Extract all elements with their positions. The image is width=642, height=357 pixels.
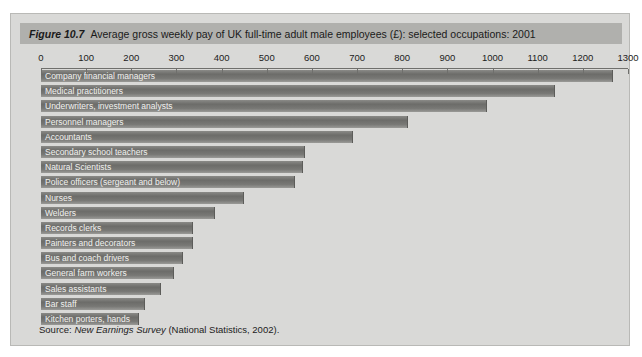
bar[interactable] — [41, 222, 193, 234]
x-tick-label: 400 — [214, 52, 230, 63]
bar[interactable] — [41, 207, 215, 219]
bar[interactable] — [41, 161, 303, 173]
x-tick-label: 100 — [78, 52, 94, 63]
bar[interactable] — [41, 267, 174, 279]
figure-title: Average gross weekly pay of UK full-time… — [90, 28, 535, 40]
source-suffix: (National Statistics, 2002). — [168, 324, 279, 335]
x-tick-mark — [267, 69, 268, 74]
x-tick-mark — [41, 69, 42, 74]
bar[interactable] — [41, 70, 613, 82]
source-prefix: Source: — [39, 324, 72, 335]
x-tick-label: 700 — [349, 52, 365, 63]
x-tick-mark — [583, 69, 584, 74]
bar-row[interactable]: Underwriters, investment analysts — [20, 99, 622, 114]
x-tick-label: 1300 — [617, 52, 638, 63]
bar-row[interactable]: Natural Scientists — [20, 160, 622, 175]
bar-row[interactable]: Sales assistants — [20, 282, 622, 297]
bar-row[interactable]: Company financial managers — [20, 69, 622, 84]
x-tick-label: 1000 — [482, 52, 503, 63]
x-tick-label: 900 — [439, 52, 455, 63]
bar[interactable] — [41, 192, 244, 204]
x-tick-mark — [493, 69, 494, 74]
bar-row[interactable]: Nurses — [20, 191, 622, 206]
source-publication: New Earnings Survey — [74, 324, 165, 335]
x-tick-mark — [357, 69, 358, 74]
source-note: Source: New Earnings Survey (National St… — [39, 324, 279, 335]
bar-row[interactable]: Personnel managers — [20, 115, 622, 130]
bar[interactable] — [41, 146, 305, 158]
bar[interactable] — [41, 237, 193, 249]
bar-row[interactable]: Records clerks — [20, 221, 622, 236]
plot-area: 0100200300400500600700800900100011001200… — [20, 52, 622, 307]
figure-number: Figure 10.7 — [29, 28, 84, 40]
bar-row[interactable]: Bus and coach drivers — [20, 251, 622, 266]
figure-panel: Figure 10.7 Average gross weekly pay of … — [10, 13, 630, 346]
bar-row[interactable]: Bar staff — [20, 297, 622, 312]
x-tick-label: 200 — [123, 52, 139, 63]
x-tick-mark — [447, 69, 448, 74]
bar[interactable] — [41, 298, 145, 310]
bar[interactable] — [41, 252, 183, 264]
bar-row[interactable]: Painters and decorators — [20, 236, 622, 251]
bar[interactable] — [41, 85, 555, 97]
bar-row[interactable]: General farm workers — [20, 266, 622, 281]
bar-row[interactable]: Welders — [20, 206, 622, 221]
x-tick-mark — [131, 69, 132, 74]
x-tick-label: 0 — [38, 52, 43, 63]
bars-container: Company financial managersMedical practi… — [20, 69, 622, 307]
bar-row[interactable]: Secondary school teachers — [20, 145, 622, 160]
x-tick-mark — [176, 69, 177, 74]
x-tick-mark — [222, 69, 223, 74]
x-tick-label: 600 — [304, 52, 320, 63]
x-tick-mark — [312, 69, 313, 74]
x-tick-label: 800 — [394, 52, 410, 63]
x-axis-tick-labels: 0100200300400500600700800900100011001200… — [20, 52, 622, 67]
bar-row[interactable]: Accountants — [20, 130, 622, 145]
bar[interactable] — [41, 131, 353, 143]
x-tick-label: 300 — [169, 52, 185, 63]
x-tick-label: 1100 — [527, 52, 547, 63]
x-tick-mark — [628, 69, 629, 74]
x-tick-mark — [538, 69, 539, 74]
x-tick-mark — [86, 69, 87, 74]
bar[interactable] — [41, 283, 161, 295]
x-tick-label: 1200 — [572, 52, 593, 63]
bar[interactable] — [41, 116, 408, 128]
bar-row[interactable]: Police officers (sergeant and below) — [20, 175, 622, 190]
x-tick-mark — [402, 69, 403, 74]
x-tick-label: 500 — [259, 52, 275, 63]
bar[interactable] — [41, 176, 295, 188]
bar-row[interactable]: Medical practitioners — [20, 84, 622, 99]
figure-title-band: Figure 10.7 Average gross weekly pay of … — [20, 23, 622, 44]
bar[interactable] — [41, 100, 487, 112]
